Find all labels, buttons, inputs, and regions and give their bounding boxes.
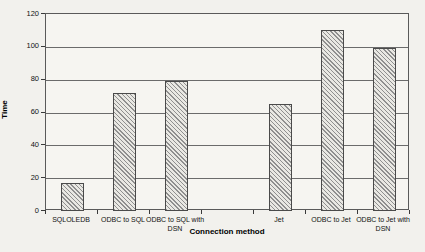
x-tick-mark <box>305 210 306 214</box>
x-tick-mark <box>409 210 410 214</box>
bar <box>321 30 344 211</box>
bar <box>165 81 188 211</box>
y-tick-mark <box>41 177 45 178</box>
x-tick-mark <box>253 210 254 214</box>
x-tick-mark <box>45 210 46 214</box>
y-gridline <box>46 178 408 179</box>
plot-area <box>45 13 409 210</box>
bar-chart: Time Connection method 020406080100120SQ… <box>0 0 425 252</box>
bar <box>61 183 84 211</box>
bar <box>373 48 396 211</box>
y-tick-label: 80 <box>9 74 39 83</box>
y-tick-label: 100 <box>9 41 39 50</box>
y-tick-mark <box>41 13 45 14</box>
y-gridline <box>46 113 408 114</box>
x-category-label: ODBC to Jet with DSN <box>341 216 425 233</box>
y-tick-mark <box>41 79 45 80</box>
y-gridline <box>46 80 408 81</box>
y-gridline <box>46 47 408 48</box>
y-tick-mark <box>41 144 45 145</box>
y-tick-label: 60 <box>9 107 39 116</box>
x-tick-mark <box>149 210 150 214</box>
y-tick-label: 40 <box>9 140 39 149</box>
bar <box>113 93 136 211</box>
y-axis-title: Time <box>0 80 9 140</box>
x-tick-mark <box>357 210 358 214</box>
y-tick-label: 120 <box>9 9 39 18</box>
y-tick-label: 0 <box>9 206 39 215</box>
y-tick-label: 20 <box>9 173 39 182</box>
bar <box>269 104 292 211</box>
x-tick-mark <box>201 210 202 214</box>
x-category-label: ODBC to SQL with DSN <box>133 216 217 233</box>
y-tick-mark <box>41 112 45 113</box>
y-gridline <box>46 145 408 146</box>
y-tick-mark <box>41 46 45 47</box>
x-tick-mark <box>97 210 98 214</box>
